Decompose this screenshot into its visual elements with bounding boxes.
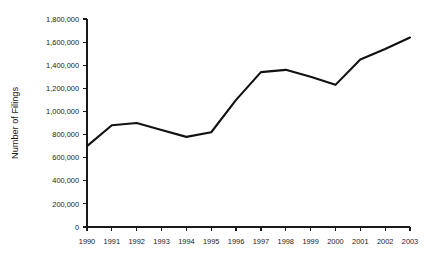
x-axis-tick-label: 1990 [79,237,95,246]
chart-canvas: 0200,000400,000600,000800,0001,000,0001,… [0,0,428,266]
y-axis-title-text: Number of Filings [10,87,20,159]
y-axis-tick-label: 200,000 [52,200,79,209]
y-axis-tick-label: 1,200,000 [46,84,79,93]
x-axis-tick-label: 1999 [302,237,318,246]
x-axis-tick-label: 1998 [278,237,294,246]
y-axis-tick-label: 800,000 [52,130,79,139]
y-axis-tick-label: 1,400,000 [46,61,79,70]
x-axis-tick-label: 1993 [153,237,169,246]
x-axis-tick-label: 2001 [352,237,368,246]
line-chart: 0200,000400,000600,000800,0001,000,0001,… [0,0,428,266]
x-axis-tick-label: 2003 [402,237,418,246]
y-axis-tick-label: 1,800,000 [46,15,79,24]
x-axis-tick-label: 2000 [327,237,343,246]
y-axis-tick-label: 1,600,000 [46,38,79,47]
x-axis-tick-label: 1992 [128,237,144,246]
x-axis-tick-label: 1995 [203,237,219,246]
x-axis-tick-label: 2002 [377,237,393,246]
y-axis-tick-label: 0 [75,223,79,232]
x-axis-tick-label: 1991 [104,237,120,246]
x-axis-tick-label: 1997 [253,237,269,246]
y-axis-tick-label: 400,000 [52,176,79,185]
y-axis-title: Number of Filings [10,87,20,159]
x-axis-tick-label: 1994 [178,237,194,246]
y-axis-tick-label: 600,000 [52,153,79,162]
x-axis-tick-label: 1996 [228,237,244,246]
y-axis-tick-label: 1,000,000 [46,107,79,116]
